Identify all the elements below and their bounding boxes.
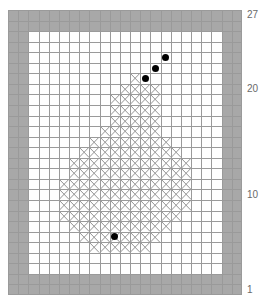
border-cell bbox=[18, 200, 29, 211]
border-cell bbox=[222, 105, 233, 116]
border-cell bbox=[191, 10, 202, 21]
cross-stitch-icon bbox=[130, 189, 140, 200]
grid-line bbox=[8, 52, 242, 53]
border-cell bbox=[18, 73, 29, 84]
border-cell bbox=[18, 116, 29, 127]
cross-stitch-icon bbox=[59, 211, 69, 222]
cross-stitch-icon bbox=[79, 168, 89, 179]
cross-stitch-icon bbox=[130, 242, 140, 253]
border-cell bbox=[8, 10, 19, 21]
cross-stitch-icon bbox=[69, 168, 79, 179]
border-cell bbox=[140, 274, 151, 285]
border-cell bbox=[222, 84, 233, 95]
cross-stitch-icon bbox=[140, 158, 150, 169]
cross-stitch-icon bbox=[110, 221, 120, 232]
grid-line bbox=[8, 294, 242, 295]
border-cell bbox=[120, 10, 131, 21]
border-cell bbox=[130, 21, 141, 32]
border-cell bbox=[150, 10, 161, 21]
cross-stitch-icon bbox=[69, 179, 79, 190]
grid-line bbox=[8, 94, 242, 95]
cross-stitch-icon bbox=[79, 211, 89, 222]
cross-stitch-icon bbox=[161, 189, 171, 200]
border-cell bbox=[89, 10, 100, 21]
border-cell bbox=[18, 263, 29, 274]
border-cell bbox=[28, 21, 39, 32]
cross-stitch-icon bbox=[150, 105, 160, 116]
border-cell bbox=[8, 94, 19, 105]
cross-stitch-icon bbox=[171, 179, 181, 190]
cross-stitch-icon bbox=[120, 242, 130, 253]
border-cell bbox=[222, 232, 233, 243]
border-cell bbox=[211, 274, 222, 285]
cross-stitch-icon bbox=[100, 200, 110, 211]
border-cell bbox=[8, 221, 19, 232]
border-cell bbox=[8, 168, 19, 179]
grid-line bbox=[8, 158, 242, 159]
cross-stitch-icon bbox=[130, 84, 140, 95]
cross-stitch-icon bbox=[100, 242, 110, 253]
border-cell bbox=[18, 147, 29, 158]
border-cell bbox=[222, 126, 233, 137]
border-cell bbox=[79, 10, 90, 21]
border-cell bbox=[49, 10, 60, 21]
cross-stitch-icon bbox=[100, 179, 110, 190]
cross-stitch-icon bbox=[120, 147, 130, 158]
cross-stitch-icon bbox=[140, 211, 150, 222]
cross-stitch-icon bbox=[69, 200, 79, 211]
cross-stitch-icon bbox=[130, 168, 140, 179]
grid-line bbox=[8, 147, 242, 148]
cross-stitch-icon bbox=[89, 147, 99, 158]
cross-stitch-icon bbox=[161, 158, 171, 169]
cross-stitch-icon bbox=[120, 137, 130, 148]
cross-stitch-icon bbox=[181, 200, 191, 211]
border-cell bbox=[18, 94, 29, 105]
grid-line bbox=[8, 221, 242, 222]
row-label: 10 bbox=[247, 190, 258, 200]
border-cell bbox=[18, 137, 29, 148]
cross-stitch-icon bbox=[161, 179, 171, 190]
grid-line bbox=[8, 10, 242, 11]
cross-stitch-icon bbox=[100, 126, 110, 137]
cross-stitch-icon bbox=[150, 179, 160, 190]
cross-stitch-icon bbox=[79, 158, 89, 169]
grid-line bbox=[8, 253, 242, 254]
grid-line bbox=[8, 284, 242, 285]
border-cell bbox=[222, 94, 233, 105]
cross-stitch-icon bbox=[161, 147, 171, 158]
border-cell bbox=[161, 21, 172, 32]
cross-stitch-icon bbox=[150, 126, 160, 137]
grid-line bbox=[8, 168, 242, 169]
border-cell bbox=[222, 31, 233, 42]
cross-stitch-icon bbox=[161, 200, 171, 211]
border-cell bbox=[222, 10, 233, 21]
grid-line bbox=[8, 73, 242, 74]
cross-stitch-icon bbox=[181, 179, 191, 190]
border-cell bbox=[171, 10, 182, 21]
border-cell bbox=[222, 253, 233, 264]
cross-stitch-icon bbox=[79, 221, 89, 232]
border-cell bbox=[8, 200, 19, 211]
cross-stitch-icon bbox=[130, 73, 140, 84]
cross-stitch-icon bbox=[140, 116, 150, 127]
border-cell bbox=[8, 42, 19, 53]
grid-line bbox=[8, 211, 242, 212]
border-cell bbox=[49, 274, 60, 285]
cross-stitch-icon bbox=[110, 158, 120, 169]
cross-stitch-icon bbox=[100, 158, 110, 169]
cross-stitch-icon bbox=[150, 168, 160, 179]
cross-stitch-icon bbox=[69, 189, 79, 200]
cross-stitch-icon bbox=[110, 147, 120, 158]
border-cell bbox=[8, 189, 19, 200]
border-cell bbox=[201, 274, 212, 285]
border-cell bbox=[8, 116, 19, 127]
border-cell bbox=[222, 263, 233, 274]
border-cell bbox=[18, 232, 29, 243]
cross-stitch-icon bbox=[130, 232, 140, 243]
border-cell bbox=[59, 10, 70, 21]
cross-stitch-icon bbox=[161, 168, 171, 179]
cross-stitch-icon bbox=[140, 232, 150, 243]
border-cell bbox=[39, 10, 50, 21]
border-cell bbox=[120, 21, 131, 32]
border-cell bbox=[161, 274, 172, 285]
